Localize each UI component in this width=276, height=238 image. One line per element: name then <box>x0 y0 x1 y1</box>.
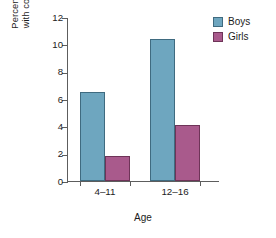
x-axis-title: Age <box>67 212 219 223</box>
y-tick-label-0: 0 <box>58 176 63 187</box>
plot-area: 0 2 4 6 8 10 12 <box>67 18 214 182</box>
y-tick-label-4: 4 <box>58 121 63 132</box>
y-tick-label-2: 2 <box>58 148 63 159</box>
legend: Boys Girls <box>213 16 250 42</box>
bar-girls-4-11 <box>105 156 130 181</box>
x-tick-mark-3 <box>200 182 201 186</box>
y-tick-10: 10 <box>67 45 68 46</box>
y-axis-title-line-2: with conduct disorders <box>21 0 33 28</box>
y-axis-title-line-1: Percentage of children <box>10 0 22 29</box>
y-tick-0: 0 <box>67 182 68 183</box>
legend-item-girls: Girls <box>213 31 250 42</box>
bar-chart: Percentage of children with conduct diso… <box>0 0 276 238</box>
y-tick-2: 2 <box>67 155 68 156</box>
legend-swatch-boys-icon <box>213 17 223 27</box>
legend-label-boys: Boys <box>228 16 250 27</box>
y-tick-4: 4 <box>67 127 68 128</box>
y-tick-label-8: 8 <box>58 66 63 77</box>
bar-boys-4-11 <box>80 92 105 181</box>
x-axis-line <box>67 181 219 182</box>
x-tick-label-4-11: 4–11 <box>94 186 115 197</box>
legend-item-boys: Boys <box>213 16 250 27</box>
x-tick-mark-1 <box>80 182 81 186</box>
x-tick-mark-2 <box>130 182 131 186</box>
y-axis-title: Percentage of children with conduct diso… <box>8 0 34 56</box>
y-tick-6: 6 <box>67 100 68 101</box>
bar-girls-12-16 <box>175 125 200 181</box>
legend-label-girls: Girls <box>228 31 249 42</box>
legend-swatch-girls-icon <box>213 32 223 42</box>
y-tick-label-6: 6 <box>58 94 63 105</box>
bar-boys-12-16 <box>150 39 175 181</box>
x-tick-label-12-16: 12–16 <box>161 186 188 197</box>
y-tick-label-12: 12 <box>52 12 63 23</box>
y-tick-label-10: 10 <box>52 39 63 50</box>
y-tick-12: 12 <box>67 18 68 19</box>
y-tick-8: 8 <box>67 73 68 74</box>
